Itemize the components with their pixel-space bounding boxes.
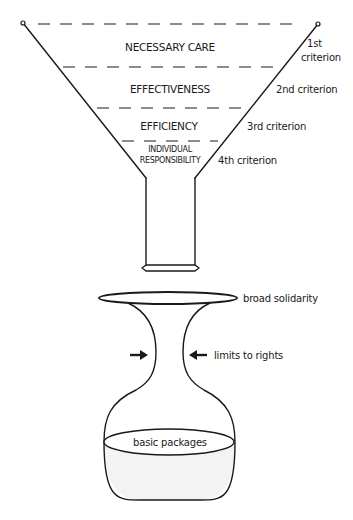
criterion-4-label: 4th criterion [218,155,277,166]
criterion-3-label: 3rd criterion [247,121,306,132]
vase-rim [99,292,237,304]
funnel-vase-diagram: NECESSARY CARE EFFECTIVENESS EFFICIENCY … [0,0,353,520]
funnel: NECESSARY CARE EFFECTIVENESS EFFICIENCY … [21,21,341,271]
arrow-left-icon [189,350,207,360]
limits-to-rights-label: limits to rights [214,350,283,361]
criterion-1-word: criterion [301,52,341,63]
level-label-efficiency: EFFICIENCY [140,120,198,132]
funnel-spout [142,265,199,271]
level-label-effectiveness: EFFECTIVENESS [130,83,211,95]
basic-packages-label: basic packages [133,437,207,448]
funnel-left-node-icon [21,21,25,25]
funnel-right-node-icon [316,22,320,26]
criterion-1-ordinal: 1st [307,38,322,49]
level-label-individual: INDIVIDUAL [148,145,192,154]
level-label-responsibility: RESPONSIBILITY [140,156,201,165]
broad-solidarity-label: broad solidarity [243,293,318,304]
vase: broad solidarity limits to rights basic … [99,292,318,500]
arrow-right-icon [130,350,148,360]
criterion-2-label: 2nd criterion [276,84,337,95]
level-label-necessary-care: NECESSARY CARE [125,41,215,53]
